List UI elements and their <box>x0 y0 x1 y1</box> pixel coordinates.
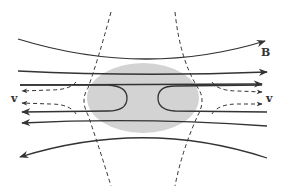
reconnection-diagram: B v v <box>0 0 285 194</box>
field-label-b: B <box>261 46 270 59</box>
field-line-bottom <box>20 138 267 158</box>
field-line-top <box>18 39 265 59</box>
velocity-label-right: v <box>265 92 273 105</box>
velocity-label-left: v <box>10 92 18 105</box>
flow-arrow-left-top <box>22 82 76 91</box>
